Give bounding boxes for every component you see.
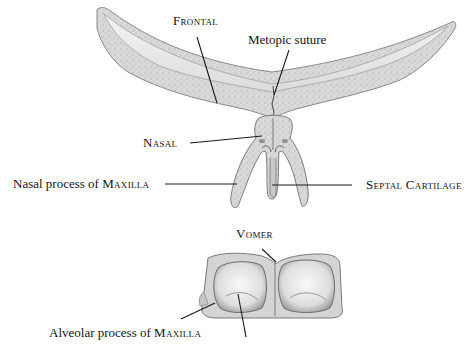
alveolar-block xyxy=(199,253,342,318)
label-nasal-process-of-maxilla: Nasal process of Maxilla xyxy=(13,177,149,191)
label-frontal: Frontal xyxy=(173,14,218,28)
frontal-bone xyxy=(97,8,456,118)
label-nasal-process-prefix: Nasal process of xyxy=(13,176,102,191)
label-nasal-process-bone: Maxilla xyxy=(102,176,149,191)
label-alveolar-process-of-maxilla: Alveolar process of Maxilla xyxy=(49,326,201,340)
anatomical-figure xyxy=(0,0,476,348)
label-metopic-suture: Metopic suture xyxy=(248,33,326,47)
label-alveolar-process-bone: Maxilla xyxy=(154,325,201,340)
label-alveolar-process-prefix: Alveolar process of xyxy=(49,325,154,340)
leader-nasal xyxy=(190,136,262,143)
label-vomer: Vomer xyxy=(236,227,273,241)
label-septal-cartilage: Septal Cartilage xyxy=(366,178,462,192)
label-nasal: Nasal xyxy=(143,136,177,150)
nasal-complex xyxy=(231,115,308,207)
